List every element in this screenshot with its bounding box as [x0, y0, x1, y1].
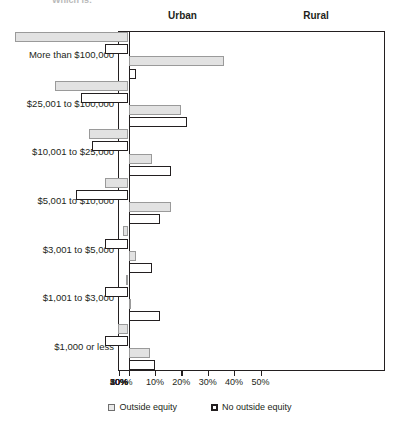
bar-urban-nooutside [105, 44, 129, 54]
bar-rural-nooutside [129, 263, 153, 273]
bar-rural-outside [129, 299, 132, 309]
bar-rural-outside [129, 202, 171, 212]
legend-item-nooutside[interactable]: No outside equity [211, 402, 292, 412]
chart-legend: Outside equityNo outside equity [0, 399, 400, 415]
bar-urban-outside [118, 324, 129, 334]
x-axis-tick [261, 371, 262, 376]
x-axis-labels: 50%40%30%20%10%%10%20%30%40%50% [0, 377, 400, 391]
x-axis-tick [155, 371, 156, 376]
bar-urban-nooutside [105, 239, 129, 249]
legend-item-outside[interactable]: Outside equity [108, 402, 177, 412]
bar-urban-nooutside [76, 190, 129, 200]
legend-label: No outside equity [222, 402, 292, 412]
legend-swatch-outside-icon [108, 404, 115, 411]
legend-swatch-nooutside-icon [211, 404, 218, 411]
x-axis-tick [129, 371, 130, 376]
bar-urban-outside [89, 129, 129, 139]
bar-rural-outside [129, 348, 150, 358]
bar-rural-nooutside [129, 166, 171, 176]
x-axis-tick [234, 371, 235, 376]
bar-rural-outside [129, 154, 153, 164]
clipped-chart-title: Which is: [52, 0, 172, 5]
bar-urban-nooutside [105, 336, 129, 346]
bar-rural-outside [129, 251, 137, 261]
x-axis-tick [208, 371, 209, 376]
y-axis-label: $3,001 to $5,000 [2, 244, 114, 255]
bar-urban-outside [126, 275, 129, 285]
bar-urban-outside [15, 32, 129, 42]
bar-rural-nooutside [129, 360, 155, 370]
bar-urban-outside [55, 81, 129, 91]
bar-urban-nooutside [105, 287, 129, 297]
bar-rural-nooutside [129, 214, 161, 224]
bar-urban-nooutside [81, 93, 129, 103]
panel-header-urban: Urban [118, 10, 247, 21]
bar-rural-outside [129, 105, 182, 115]
y-axis-label: More than $100,000 [2, 49, 114, 60]
bar-urban-nooutside [92, 141, 129, 151]
x-axis-tick [181, 371, 182, 376]
y-axis-label: $1,000 or less [2, 341, 114, 352]
bar-rural-nooutside [129, 117, 187, 127]
bar-rural-nooutside [129, 311, 161, 321]
x-axis-tick [119, 371, 120, 376]
bar-urban-outside [123, 226, 128, 236]
bar-rural-outside [129, 56, 224, 66]
x-axis-tick-label: 50% [241, 377, 281, 387]
legend-label: Outside equity [119, 402, 177, 412]
bar-urban-outside [105, 178, 129, 188]
bar-rural-nooutside [129, 69, 137, 79]
chart-root: Which is: Urban Rural More than $100,000… [0, 0, 400, 425]
panel-header-rural: Rural [247, 10, 385, 21]
y-axis-label: $1,001 to $3,000 [2, 292, 114, 303]
